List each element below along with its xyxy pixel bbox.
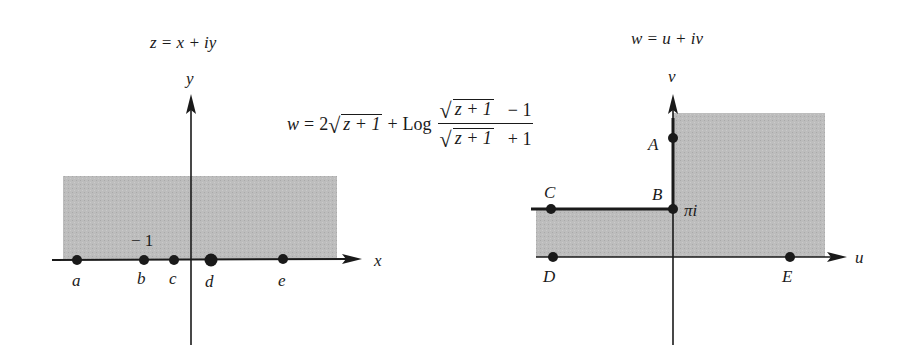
point-b — [139, 255, 149, 265]
label-e: e — [278, 271, 286, 290]
formula-plus: + — [387, 114, 397, 135]
v-axis-label: v — [668, 67, 676, 86]
x-axis — [52, 259, 352, 260]
label-B: B — [652, 185, 663, 204]
label-b: b — [137, 269, 146, 288]
w-plane-title: w = u + iv — [631, 29, 704, 48]
label-C: C — [544, 183, 556, 202]
fraction-numerator: √ z + 1 − 1 — [438, 98, 534, 124]
numerator-sqrt: √ z + 1 — [440, 98, 494, 120]
radical-icon: √ — [440, 129, 452, 151]
radicand: z + 1 — [341, 114, 382, 135]
point-A — [668, 133, 678, 143]
denominator-radicand: z + 1 — [453, 128, 494, 149]
z-plane: a b c d e − 1 x y z = x + iy — [52, 33, 382, 345]
z-plane-shaded-region — [63, 176, 337, 260]
denominator-sqrt: √ z + 1 — [440, 127, 494, 149]
point-C — [546, 204, 556, 214]
point-c — [169, 255, 179, 265]
point-B — [668, 204, 678, 214]
tick-label-minus-one: − 1 — [131, 231, 153, 250]
w-plane-shaded-strip — [536, 209, 673, 257]
formula-coef: 2 — [319, 114, 328, 135]
diagram-canvas: a b c d e − 1 x y z = x + iy A B C D E π… — [0, 0, 903, 358]
label-c: c — [169, 269, 177, 288]
mapping-formula: w = 2 √ z + 1 + Log √ z + 1 − 1 √ z + 1 … — [287, 98, 533, 150]
log-fraction: √ z + 1 − 1 √ z + 1 + 1 — [438, 98, 534, 150]
label-d: d — [205, 272, 214, 291]
z-plane-title: z = x + iy — [149, 33, 217, 52]
label-E: E — [781, 267, 793, 286]
formula-log: Log — [403, 114, 432, 135]
fraction-denominator: √ z + 1 + 1 — [440, 124, 532, 150]
label-a: a — [72, 271, 81, 290]
w-plane: A B C D E πi u v w = u + iv — [531, 29, 864, 345]
point-E — [785, 252, 795, 262]
radical-icon: √ — [328, 115, 340, 137]
point-d — [205, 254, 218, 267]
point-e — [278, 254, 288, 264]
point-a — [72, 255, 82, 265]
numerator-tail: − 1 — [508, 100, 532, 120]
denominator-tail: + 1 — [508, 129, 532, 149]
formula-equals: = — [304, 114, 314, 135]
x-axis-label: x — [373, 251, 382, 270]
w-plane-shaded-quadrant — [673, 113, 825, 257]
sqrt-term: √ z + 1 — [328, 113, 382, 135]
pi-i-label: πi — [684, 201, 698, 220]
numerator-radicand: z + 1 — [453, 99, 494, 120]
label-A: A — [647, 135, 659, 154]
y-axis-label: y — [184, 69, 194, 88]
u-axis-label: u — [855, 248, 864, 267]
point-D — [548, 252, 558, 262]
radical-icon: √ — [440, 100, 452, 122]
label-D: D — [542, 267, 556, 286]
formula-lhs: w — [287, 114, 299, 135]
